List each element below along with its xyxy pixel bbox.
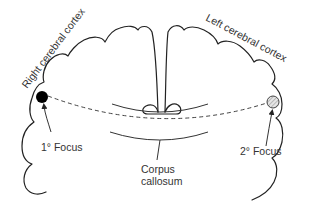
brain-diagram: Right cerebral cortex Left cerebral cort… bbox=[0, 0, 311, 213]
secondary-focus-label: 2° Focus bbox=[240, 145, 282, 157]
right-cortex-label: Right cerebral cortex bbox=[19, 5, 87, 90]
corpus-callosum-label-line2: callosum bbox=[141, 175, 183, 187]
corpus-callosum-label-line1: Corpus bbox=[141, 163, 175, 175]
primary-focus-dot bbox=[36, 91, 48, 103]
interhemispheric-fissure bbox=[143, 104, 181, 114]
corpus-callosum-upper bbox=[112, 104, 208, 112]
primary-focus-arrow bbox=[44, 106, 51, 132]
corpus-callosum-lower bbox=[110, 132, 208, 140]
primary-focus-label: 1° Focus bbox=[41, 141, 83, 153]
corpus-callosum-pointer bbox=[157, 140, 160, 160]
propagation-path bbox=[48, 96, 270, 119]
secondary-focus-arrow bbox=[266, 112, 272, 146]
secondary-focus-dot bbox=[267, 96, 279, 108]
left-cortex-label: Left cerebral cortex bbox=[204, 11, 290, 64]
